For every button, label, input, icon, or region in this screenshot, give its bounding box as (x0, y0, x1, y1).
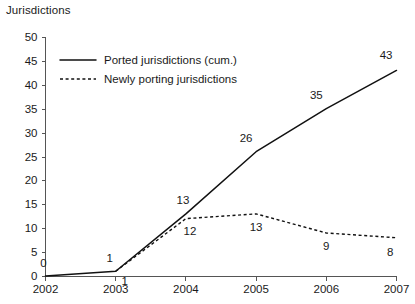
x-tick-label: 2002 (33, 283, 59, 295)
x-tick-label: 2005 (243, 283, 269, 295)
data-point-label: 9 (323, 240, 329, 252)
data-point-label: 13 (177, 194, 190, 206)
legend-item-label: Ported jurisdictions (cum.) (104, 54, 237, 66)
data-label-group: 01132635431121398 (40, 49, 393, 287)
data-point-label: 35 (310, 89, 323, 101)
x-tick-group: 200220032004200520062007 (33, 277, 410, 296)
y-tick-label: 10 (25, 222, 38, 234)
x-tick-label: 2007 (384, 283, 410, 295)
chart-screenshot: Jurisdictions 05101520253035404550 20022… (0, 0, 415, 304)
x-axis: 200220032004200520062007 (33, 277, 410, 296)
y-tick-label: 40 (25, 79, 38, 91)
y-tick-group: 05101520253035404550 (25, 31, 46, 282)
data-point-label: 26 (240, 132, 253, 144)
data-point-label: 43 (380, 49, 393, 61)
data-point-label: 1 (121, 275, 127, 287)
x-tick-label: 2004 (173, 283, 199, 295)
y-tick-label: 20 (25, 174, 38, 186)
series-group (46, 70, 397, 276)
y-axis: 05101520253035404550 (25, 31, 46, 282)
y-tick-label: 5 (31, 246, 37, 258)
y-tick-label: 15 (25, 198, 38, 210)
y-tick-label: 45 (25, 55, 38, 67)
y-tick-label: 50 (25, 31, 38, 43)
y-tick-label: 25 (25, 151, 38, 163)
data-point-label: 8 (387, 246, 393, 258)
chart-plot-area: 05101520253035404550 2002200320042005200… (0, 0, 415, 304)
series-line-solid (46, 70, 397, 276)
data-point-label: 13 (250, 221, 263, 233)
y-tick-label: 0 (31, 270, 37, 282)
chart-legend: Ported jurisdictions (cum.)Newly porting… (60, 54, 237, 85)
x-tick-label: 2006 (314, 283, 340, 295)
line-chart: Jurisdictions 05101520253035404550 20022… (0, 0, 415, 304)
data-point-label: 12 (184, 225, 197, 237)
y-tick-label: 35 (25, 103, 38, 115)
y-tick-label: 30 (25, 127, 38, 139)
data-point-label: 1 (106, 252, 112, 264)
data-point-label: 0 (40, 257, 46, 269)
legend-item-label: Newly porting jurisdictions (104, 73, 237, 85)
